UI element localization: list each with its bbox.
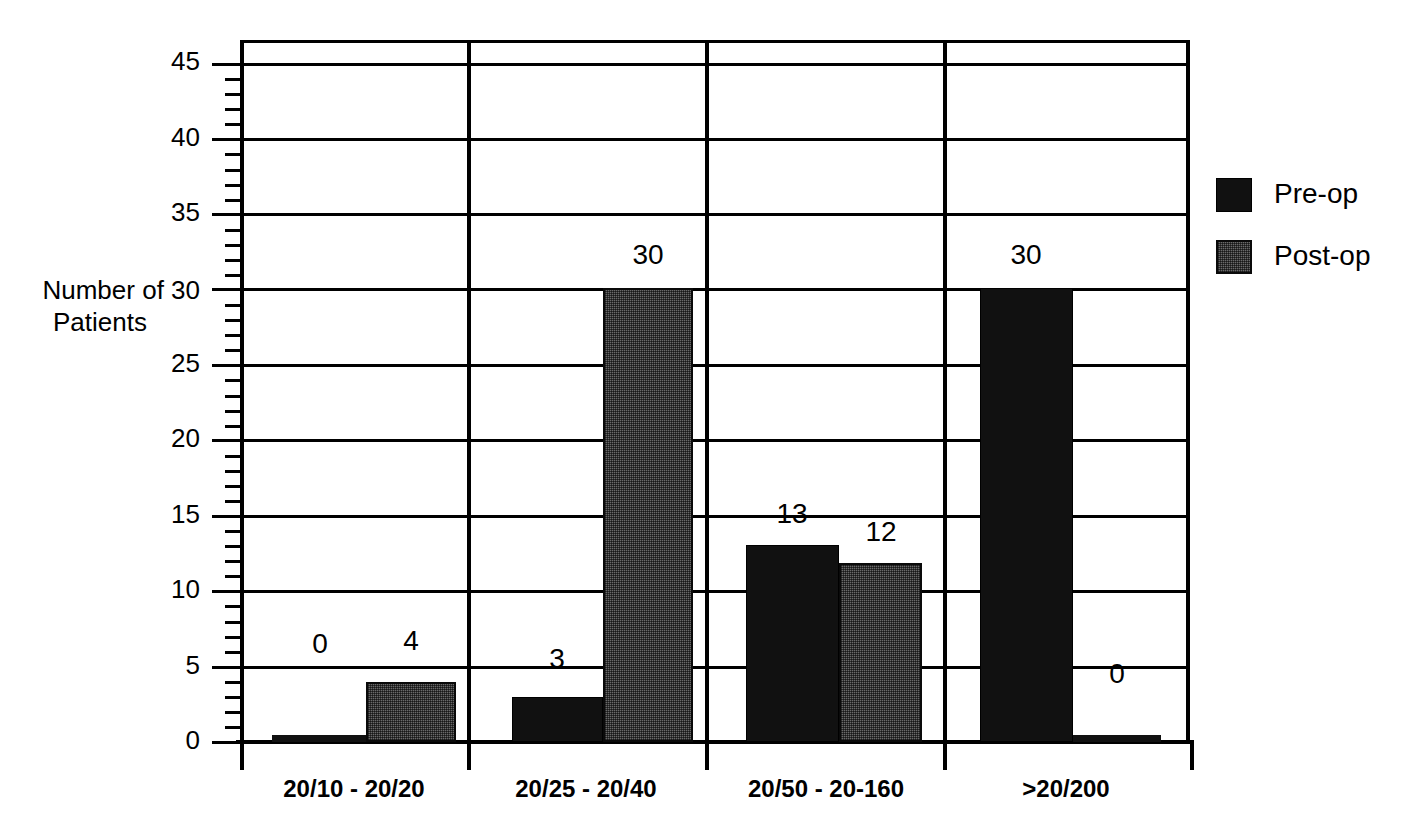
y-tick-40 <box>212 138 242 141</box>
legend-label-preop: Pre-op <box>1274 172 1358 216</box>
value-label-preop-group3: 13 <box>752 500 832 528</box>
bar-preop-group4 <box>980 288 1073 742</box>
legend-label-postop: Post-op <box>1274 234 1371 278</box>
y-tick-label-5: 5 <box>120 652 200 678</box>
y-minor-tick-41 <box>225 123 242 126</box>
y-minor-tick-26 <box>225 349 242 352</box>
bar-preop-group3 <box>746 545 839 742</box>
y-axis-title-line1: Number of 30 <box>0 274 258 306</box>
y-minor-tick-19 <box>225 455 242 458</box>
y-minor-tick-14 <box>225 530 242 533</box>
value-label-preop-group4: 30 <box>986 241 1066 269</box>
y-minor-tick-21 <box>225 425 242 428</box>
y-minor-tick-4 <box>225 681 242 684</box>
y-tick-35 <box>212 213 242 216</box>
x-axis-label-group4: >20/200 <box>986 776 1146 802</box>
y-axis-title-line2: Patients <box>0 306 258 338</box>
gridline-35 <box>240 213 1190 216</box>
value-label-preop-group2: 3 <box>517 645 597 673</box>
x-tick-1 <box>467 742 471 770</box>
y-tick-45 <box>212 63 242 66</box>
group-separator-3 <box>943 40 947 762</box>
y-tick-label-15: 15 <box>120 501 200 527</box>
x-axis-label-group1: 20/10 - 20/20 <box>254 776 454 802</box>
x-axis-label-group3: 20/50 - 20-160 <box>721 776 931 802</box>
value-label-preop-group1: 0 <box>280 630 360 658</box>
y-minor-tick-1 <box>225 726 242 729</box>
bar-postop-group1 <box>366 682 456 742</box>
legend-swatch-postop-icon <box>1216 240 1252 274</box>
y-minor-tick-7 <box>225 636 242 639</box>
y-minor-tick-16 <box>225 500 242 503</box>
y-minor-tick-33 <box>225 244 242 247</box>
y-minor-tick-34 <box>225 229 242 232</box>
x-axis-label-group2: 20/25 - 20/40 <box>486 776 686 802</box>
y-minor-tick-11 <box>225 575 242 578</box>
y-tick-label-20: 20 <box>120 425 200 451</box>
y-minor-tick-9 <box>225 605 242 608</box>
y-minor-tick-24 <box>225 379 242 382</box>
y-minor-tick-36 <box>225 199 242 202</box>
group-separator-2 <box>705 40 709 762</box>
y-minor-tick-32 <box>225 259 242 262</box>
y-minor-tick-39 <box>225 153 242 156</box>
bar-postop-group4 <box>1073 735 1161 742</box>
y-minor-tick-3 <box>225 696 242 699</box>
value-label-postop-group4: 0 <box>1077 660 1157 688</box>
y-tick-10 <box>212 590 242 593</box>
group-separator-1 <box>467 40 471 762</box>
bar-preop-group1 <box>272 735 366 742</box>
y-minor-tick-22 <box>225 410 242 413</box>
y-minor-tick-8 <box>225 621 242 624</box>
value-label-postop-group2: 30 <box>608 241 688 269</box>
y-tick-label-0: 0 <box>120 727 200 753</box>
bar-postop-group3 <box>839 563 922 742</box>
y-minor-tick-17 <box>225 485 242 488</box>
y-tick-label-10: 10 <box>120 576 200 602</box>
y-axis-line <box>240 40 244 762</box>
y-minor-tick-13 <box>225 545 242 548</box>
y-minor-tick-12 <box>225 560 242 563</box>
y-tick-label-35: 35 <box>120 199 200 225</box>
y-tick-15 <box>212 515 242 518</box>
y-minor-tick-2 <box>225 711 242 714</box>
y-tick-25 <box>212 364 242 367</box>
bar-chart: 45 40 35 25 20 15 10 5 0 Number of 30 Pa… <box>0 0 1426 836</box>
y-minor-tick-43 <box>225 93 242 96</box>
y-minor-tick-23 <box>225 395 242 398</box>
y-axis-title: Number of 30 Patients <box>0 274 258 338</box>
y-minor-tick-6 <box>225 651 242 654</box>
y-minor-tick-18 <box>225 470 242 473</box>
bar-preop-group2 <box>512 697 603 742</box>
x-tick-2 <box>705 742 709 770</box>
y-tick-20 <box>212 439 242 442</box>
value-label-postop-group3: 12 <box>841 518 921 546</box>
y-tick-label-25: 25 <box>120 350 200 376</box>
y-minor-tick-38 <box>225 169 242 172</box>
y-minor-tick-37 <box>225 184 242 187</box>
y-minor-tick-42 <box>225 108 242 111</box>
legend-swatch-preop-icon <box>1216 178 1252 212</box>
y-tick-label-40: 40 <box>120 124 200 150</box>
gridline-40 <box>240 138 1190 141</box>
y-tick-5 <box>212 666 242 669</box>
y-tick-0 <box>212 741 242 744</box>
gridline-45 <box>240 63 1190 66</box>
x-tick-0 <box>240 742 244 770</box>
value-label-postop-group1: 4 <box>371 627 451 655</box>
x-tick-3 <box>943 742 947 770</box>
y-minor-tick-44 <box>225 78 242 81</box>
x-tick-4 <box>1190 742 1194 770</box>
bar-postop-group2 <box>603 288 693 742</box>
y-tick-label-45: 45 <box>120 48 200 74</box>
